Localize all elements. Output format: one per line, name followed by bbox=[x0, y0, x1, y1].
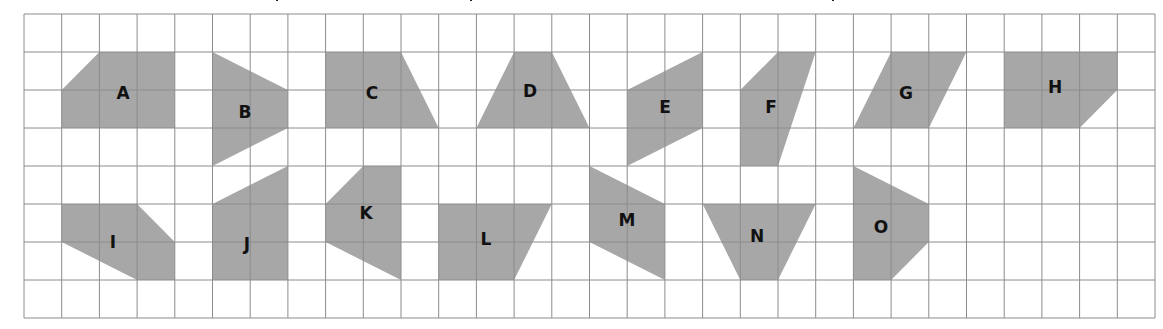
shape-label-l: L bbox=[481, 229, 492, 249]
shape-label-h: H bbox=[1048, 77, 1062, 97]
shape-label-n: N bbox=[750, 226, 764, 246]
caption-descender-fragment bbox=[470, 0, 472, 1]
shape-grid-figure: ABCDEFGHIJKLMNO bbox=[0, 0, 1163, 329]
shape-label-a: A bbox=[116, 83, 130, 103]
shape-label-k: K bbox=[359, 203, 373, 223]
shape-label-o: O bbox=[874, 217, 888, 237]
shape-label-c: C bbox=[366, 83, 378, 103]
cropped-caption-fragments bbox=[0, 0, 1163, 2]
shape-label-f: F bbox=[765, 97, 777, 117]
caption-descender-fragment bbox=[832, 0, 834, 1]
shape-label-d: D bbox=[523, 81, 537, 101]
caption-descender-fragment bbox=[276, 0, 278, 1]
shape-label-b: B bbox=[239, 102, 252, 122]
shape-label-e: E bbox=[659, 97, 671, 117]
grid-lines bbox=[24, 14, 1155, 318]
grid-diagram: ABCDEFGHIJKLMNO bbox=[0, 0, 1163, 329]
shape-label-j: J bbox=[243, 234, 250, 254]
shape-label-m: M bbox=[619, 210, 636, 230]
shape-label-g: G bbox=[899, 83, 913, 103]
shape-label-i: I bbox=[110, 232, 116, 252]
